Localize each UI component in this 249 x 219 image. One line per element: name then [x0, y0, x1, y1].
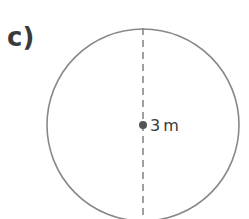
circle-diagram: 3m	[0, 0, 249, 219]
center-dot	[139, 121, 147, 129]
measurement-label: 3m	[150, 116, 179, 135]
